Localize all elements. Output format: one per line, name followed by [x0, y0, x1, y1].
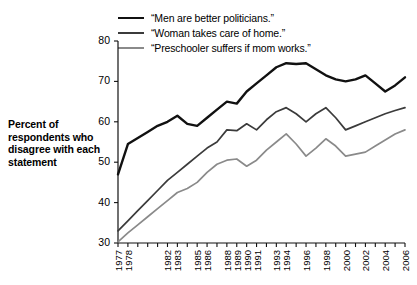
series-line-0 — [118, 63, 405, 174]
plot-area — [0, 0, 417, 285]
chart-container: Percent of respondents who disagree with… — [0, 0, 417, 285]
series-line-1 — [118, 108, 405, 231]
